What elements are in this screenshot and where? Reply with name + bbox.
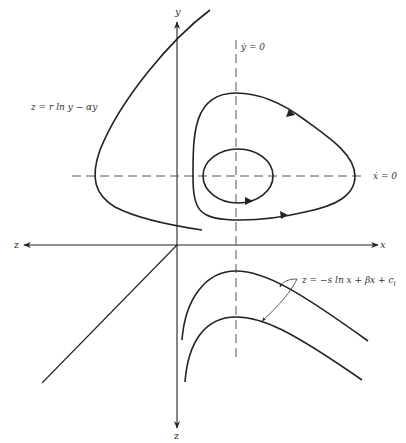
lower-curve-lower	[185, 317, 362, 382]
x-dot-zero-label: ẋ = 0	[373, 171, 397, 181]
equation-pointer-lower	[262, 279, 297, 321]
lower-curves-equation-subscript: i	[393, 280, 395, 288]
z-axis-bottom-label: z	[174, 431, 179, 441]
diagram-canvas: y x z z ẏ = 0 ẋ = 0 z = r ln y − αy z = …	[0, 0, 406, 443]
lower-curves-equation-text: z = −s ln x + βx + c	[301, 275, 393, 285]
lower-curves-equation: z = −s ln x + βx + ci	[301, 275, 396, 288]
z-axis-left-label: z	[14, 240, 19, 250]
left-curve-equation: z = r ln y − αy	[30, 102, 98, 112]
left-parabolic-curve	[95, 10, 210, 230]
outer-orbit-arrow-bottom	[280, 211, 288, 219]
y-dot-zero-label: ẏ = 0	[240, 42, 265, 52]
y-axis-label: y	[174, 6, 181, 17]
outer-orbit	[193, 93, 355, 220]
inner-orbit-arrow	[245, 197, 253, 205]
diagonal-axis	[42, 245, 177, 383]
x-axis-label: x	[380, 239, 386, 250]
